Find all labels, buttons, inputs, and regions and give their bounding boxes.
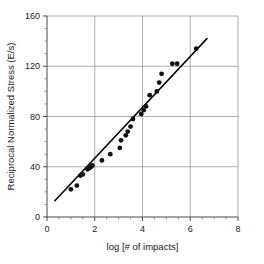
ytick-label: 120 (25, 61, 40, 71)
data-point (108, 152, 113, 157)
data-point (147, 93, 152, 98)
data-point (170, 61, 175, 66)
data-point (159, 71, 164, 76)
data-point (157, 80, 162, 85)
xtick-label: 6 (188, 224, 193, 234)
ytick-label: 0 (35, 212, 40, 222)
xtick-label: 0 (44, 224, 49, 234)
tick-labels: 0408012016002468 (25, 11, 241, 234)
xtick-label: 4 (140, 224, 145, 234)
ytick-label: 40 (30, 162, 40, 172)
data-point (80, 172, 85, 177)
chart-figure: 0408012016002468 log [# of impacts]Recip… (0, 0, 264, 264)
xtick-label: 2 (92, 224, 97, 234)
x-axis-title: log [# of impacts] (107, 241, 179, 252)
data-point (144, 104, 149, 109)
data-point (119, 138, 124, 143)
data-point (154, 89, 159, 94)
y-axis-title: Reciprocal Normalized Stress (E/s) (5, 43, 16, 191)
ytick-label: 160 (25, 11, 40, 21)
data-point (175, 61, 180, 66)
data-point (74, 183, 79, 188)
ytick-label: 80 (30, 112, 40, 122)
data-point (128, 124, 133, 129)
xtick-label: 8 (235, 224, 240, 234)
data-point (125, 129, 130, 134)
data-point (131, 117, 136, 122)
data-point (117, 146, 122, 151)
data-point (194, 46, 199, 51)
data-point (68, 187, 73, 192)
scatter-plot: 0408012016002468 log [# of impacts]Recip… (0, 0, 264, 264)
data-point (100, 158, 105, 163)
axis-titles: log [# of impacts]Reciprocal Normalized … (5, 43, 178, 252)
data-point (90, 163, 95, 168)
